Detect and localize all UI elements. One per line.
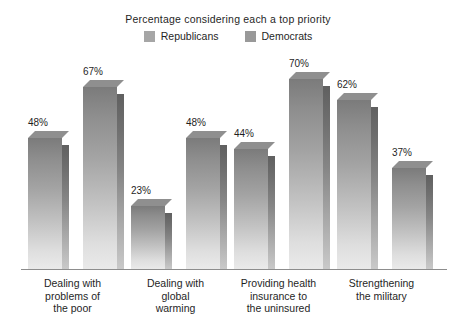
bar-front-face	[289, 79, 323, 269]
bar-front-face	[83, 87, 117, 269]
bar-side-face	[62, 145, 69, 269]
category-label: Dealing withproblems ofthe poor	[14, 277, 131, 315]
bar-value-label: 48%	[28, 117, 48, 128]
bar-top-face	[289, 72, 330, 80]
bar-front-face	[186, 138, 220, 269]
category-label-line: Providing health	[220, 277, 337, 290]
bar-value-label: 70%	[289, 58, 309, 69]
bar-side-face	[323, 86, 330, 269]
bar	[289, 79, 323, 269]
bar-side-face	[426, 175, 433, 269]
plot-area: 48%67%23%48%44%70%62%37% Dealing withpro…	[0, 0, 456, 333]
category-label: Dealing withglobalwarming	[117, 277, 234, 315]
bar	[186, 138, 220, 269]
bar-front-face	[392, 168, 426, 269]
category-label-line: Dealing with	[14, 277, 131, 290]
x-axis-baseline	[21, 269, 447, 270]
bar-chart: Percentage considering each a top priori…	[0, 0, 456, 333]
category-label-line: Dealing with	[117, 277, 234, 290]
bar-front-face	[337, 100, 371, 269]
bar-top-face	[234, 142, 275, 150]
category-label: Providing healthinsurance tothe uninsure…	[220, 277, 337, 315]
bar-value-label: 67%	[83, 66, 103, 77]
category-label-line: the poor	[14, 302, 131, 315]
category-label-line: problems of	[14, 290, 131, 303]
bar-value-label: 23%	[131, 185, 151, 196]
bar-side-face	[371, 107, 378, 269]
bar-value-label: 48%	[186, 117, 206, 128]
bar-front-face	[28, 138, 62, 269]
bar-value-label: 37%	[392, 147, 412, 158]
bar-value-label: 44%	[234, 128, 254, 139]
bar-top-face	[392, 161, 433, 169]
bar-value-label: 62%	[337, 79, 357, 90]
bar-side-face	[220, 145, 227, 269]
bar-side-face	[268, 156, 275, 269]
bar-top-face	[83, 80, 124, 88]
category-label-line: the uninsured	[220, 302, 337, 315]
category-label-line: insurance to	[220, 290, 337, 303]
bar-front-face	[131, 206, 165, 269]
bar	[28, 138, 62, 269]
bar-side-face	[165, 213, 172, 269]
category-label-line: the military	[323, 290, 440, 303]
category-label: Strengtheningthe military	[323, 277, 440, 302]
bar-top-face	[186, 131, 227, 139]
bar	[337, 100, 371, 269]
category-label-line: Strengthening	[323, 277, 440, 290]
category-label-line: global	[117, 290, 234, 303]
bar	[234, 149, 268, 269]
bar-top-face	[28, 131, 69, 139]
bar	[392, 168, 426, 269]
category-label-line: warming	[117, 302, 234, 315]
bar-top-face	[337, 93, 378, 101]
bar-front-face	[234, 149, 268, 269]
bar	[131, 206, 165, 269]
bar-side-face	[117, 94, 124, 269]
bar	[83, 87, 117, 269]
bar-top-face	[131, 199, 172, 207]
